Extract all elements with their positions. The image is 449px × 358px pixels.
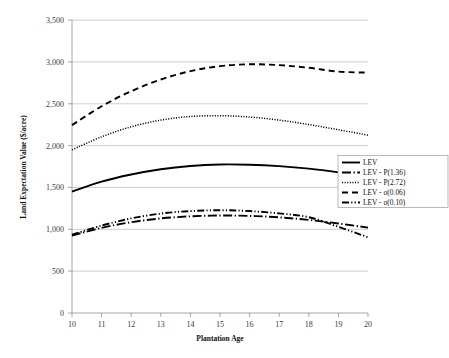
legend-label: LEV - σ(0.06) [363,188,406,197]
x-tick-label: 15 [216,320,224,329]
x-tick-label: 13 [157,320,165,329]
y-tick-label: 3,500 [46,16,64,25]
y-tick-label: 1,000 [46,225,64,234]
x-tick-label: 10 [68,320,76,329]
y-tick-label: 3,000 [46,58,64,67]
y-tick-label: 1,500 [46,183,64,192]
legend-label: LEV - σ(0.10) [363,198,406,207]
x-tick-label: 17 [275,320,283,329]
chart-figure: 3,500 3,000 2,500 2,000 1,500 1,000 500 … [0,0,449,358]
x-tick-label: 12 [127,320,135,329]
x-tick-label: 18 [305,320,313,329]
chart-svg: 3,500 3,000 2,500 2,000 1,500 1,000 500 … [0,0,449,358]
legend-label: LEV - P(2.72) [363,178,406,187]
y-tick-label: 2,500 [46,100,64,109]
y-tick-label: 0 [60,309,64,318]
x-axis-title: Plantation Age [196,334,244,343]
legend-label: LEV - P(1.36) [363,168,406,177]
x-tick-label: 11 [98,320,106,329]
x-tick-label: 16 [246,320,254,329]
y-tick-label: 500 [52,267,64,276]
x-tick-label: 20 [364,320,372,329]
legend-label: LEV [363,158,378,167]
x-tick-label: 19 [334,320,342,329]
y-axis-title: Land Expectation Value ($/acre) [19,115,28,219]
y-tick-label: 2,000 [46,142,64,151]
x-tick-label: 14 [186,320,194,329]
chart-legend: LEV LEV - P(1.36) LEV - P(2.72) LEV - σ(… [338,156,448,208]
